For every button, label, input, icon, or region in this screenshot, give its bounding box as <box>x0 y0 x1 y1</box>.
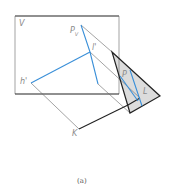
blue-line-pv-l <box>81 25 98 84</box>
label-k: K <box>72 130 77 138</box>
blue-line-h-l <box>31 52 90 83</box>
label-pv-sub: V <box>75 31 78 37</box>
label-l: L <box>143 88 147 96</box>
caption: (a) <box>77 178 87 185</box>
label-h-prime: h' <box>20 78 27 86</box>
diagram-canvas: V PV l' h' K P L (a) <box>0 0 171 186</box>
label-p: P <box>122 71 127 79</box>
plane-edge-h-k <box>31 83 79 129</box>
k-edge <box>79 105 128 129</box>
label-pv: PV <box>70 27 78 37</box>
label-l-prime: l' <box>92 44 96 52</box>
label-v-plane: V <box>19 20 24 28</box>
